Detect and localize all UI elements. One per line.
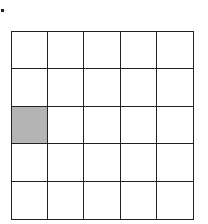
- grid-cell[interactable]: [121, 182, 157, 219]
- grid-cell[interactable]: [48, 107, 84, 144]
- grid-cell[interactable]: [157, 32, 193, 69]
- corner-dot: [1, 9, 4, 12]
- grid-cell[interactable]: [12, 69, 48, 106]
- grid-cell[interactable]: [12, 182, 48, 219]
- grid-cell[interactable]: [84, 69, 120, 106]
- grid-cell[interactable]: [84, 182, 120, 219]
- grid-cell[interactable]: [121, 69, 157, 106]
- grid-cell[interactable]: [157, 182, 193, 219]
- grid-cell[interactable]: [48, 69, 84, 106]
- grid-cell[interactable]: [48, 32, 84, 69]
- grid-cell[interactable]: [157, 69, 193, 106]
- grid-cell[interactable]: [121, 107, 157, 144]
- grid-cell[interactable]: [157, 107, 193, 144]
- grid-cell[interactable]: [48, 144, 84, 181]
- grid-cell[interactable]: [121, 144, 157, 181]
- grid-cell[interactable]: [84, 144, 120, 181]
- grid-cell[interactable]: [12, 32, 48, 69]
- grid-cell-shaded[interactable]: [12, 107, 48, 144]
- grid-cell[interactable]: [12, 144, 48, 181]
- grid-cell[interactable]: [84, 107, 120, 144]
- grid-cell[interactable]: [84, 32, 120, 69]
- grid-cell[interactable]: [48, 182, 84, 219]
- grid-board: [11, 31, 194, 220]
- grid-cell[interactable]: [157, 144, 193, 181]
- grid-cell[interactable]: [121, 32, 157, 69]
